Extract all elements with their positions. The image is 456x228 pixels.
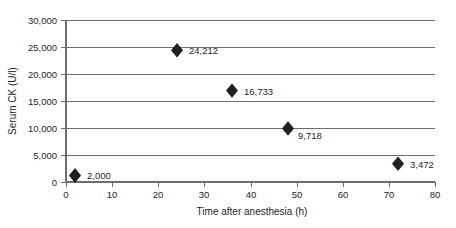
x-tick-label-40: 40 bbox=[246, 189, 257, 200]
diamond-marker[interactable] bbox=[282, 121, 294, 135]
data-point[interactable]: 3,472 bbox=[392, 157, 434, 172]
x-tick-label-30: 30 bbox=[199, 189, 210, 200]
x-tick-label-70: 70 bbox=[384, 189, 395, 200]
diamond-marker[interactable] bbox=[226, 83, 238, 97]
y-tick-label-25000: 25,000 bbox=[28, 42, 57, 53]
data-series: 2,000 24,212 16,733 9,718 3,472 bbox=[69, 43, 434, 183]
scatter-plot: 30,000 25,000 20,000 15,000 10,000 5,000… bbox=[0, 0, 456, 228]
data-point[interactable]: 9,718 bbox=[282, 121, 322, 141]
y-tick-label-15000: 15,000 bbox=[28, 96, 57, 107]
data-point-label: 3,472 bbox=[410, 159, 434, 170]
x-tick-label-10: 10 bbox=[107, 189, 118, 200]
chart-figure: 30,000 25,000 20,000 15,000 10,000 5,000… bbox=[0, 0, 456, 228]
x-axis-title: Time after anesthesia (h) bbox=[197, 206, 308, 217]
y-tick-labels: 30,000 25,000 20,000 15,000 10,000 5,000… bbox=[28, 15, 57, 188]
y-tick-label-10000: 10,000 bbox=[28, 123, 57, 134]
x-axis bbox=[66, 182, 435, 187]
x-tick-label-50: 50 bbox=[292, 189, 303, 200]
x-tick-label-60: 60 bbox=[338, 189, 349, 200]
data-point[interactable]: 16,733 bbox=[226, 83, 273, 97]
diamond-marker[interactable] bbox=[392, 157, 404, 172]
data-point[interactable]: 24,212 bbox=[171, 43, 218, 57]
data-point-label: 24,212 bbox=[189, 45, 218, 56]
data-point[interactable]: 2,000 bbox=[69, 168, 111, 183]
data-point-label: 2,000 bbox=[87, 170, 111, 181]
data-point-label: 9,718 bbox=[298, 130, 322, 141]
data-point-label: 16,733 bbox=[244, 86, 273, 97]
x-tick-label-20: 20 bbox=[153, 189, 164, 200]
x-tick-label-0: 0 bbox=[63, 189, 68, 200]
y-tick-label-20000: 20,000 bbox=[28, 69, 57, 80]
diamond-marker[interactable] bbox=[69, 168, 81, 183]
y-tick-label-5000: 5,000 bbox=[33, 150, 57, 161]
y-axis-title: Serum CK (U/l) bbox=[7, 67, 18, 135]
y-tick-label-30000: 30,000 bbox=[28, 15, 57, 26]
x-tick-label-80: 80 bbox=[430, 189, 441, 200]
x-tick-labels: 0 10 20 30 40 50 60 70 80 bbox=[63, 189, 440, 200]
diamond-marker[interactable] bbox=[171, 43, 183, 57]
y-axis bbox=[61, 20, 66, 182]
y-tick-label-0: 0 bbox=[52, 177, 57, 188]
